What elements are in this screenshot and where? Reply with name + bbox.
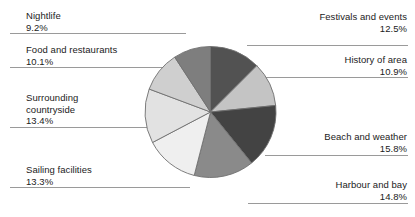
callout-percent: 13.4% (26, 115, 78, 127)
pie-chart-figure: Nightlife 9.2% Food and restaurants 10.1… (0, 0, 415, 217)
callout-percent: 10.1% (26, 56, 117, 68)
callout-label-sailing-facilities: Sailing facilities 13.3% (26, 164, 92, 187)
callout-percent: 10.9% (344, 66, 407, 78)
callout-percent: 9.2% (26, 22, 61, 34)
callout-percent: 14.8% (335, 191, 407, 203)
callout-name: Surrounding (26, 92, 78, 104)
callout-name: Beach and weather (324, 131, 407, 143)
callout-label-festivals-and-events: Festivals and events 12.5% (319, 11, 407, 34)
pie-slices (145, 47, 276, 178)
callout-name: Food and restaurants (26, 44, 117, 56)
callout-label-nightlife: Nightlife 9.2% (26, 10, 61, 33)
callout-label-harbour-and-bay: Harbour and bay 14.8% (335, 179, 407, 202)
callout-name: Sailing facilities (26, 164, 92, 176)
callout-percent: 15.8% (324, 143, 407, 155)
callout-percent: 12.5% (319, 23, 407, 35)
callout-name: History of area (344, 54, 407, 66)
callout-name: Harbour and bay (335, 179, 407, 191)
callout-name: Nightlife (26, 10, 61, 22)
callout-label-history-of-area: History of area 10.9% (344, 54, 407, 77)
callout-name-line2: countryside (26, 104, 78, 116)
callout-label-surrounding-countryside: Surrounding countryside 13.4% (26, 92, 78, 127)
callout-label-food-and-restaurants: Food and restaurants 10.1% (26, 44, 117, 67)
callout-percent: 13.3% (26, 176, 92, 188)
callout-label-beach-and-weather: Beach and weather 15.8% (324, 131, 407, 154)
callout-name: Festivals and events (319, 11, 407, 23)
